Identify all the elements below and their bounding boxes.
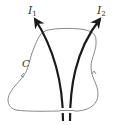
label-i1: I1 (27, 4, 37, 18)
current-wire-i2 (70, 19, 100, 121)
loop-direction-arrow-right (92, 71, 96, 74)
ampere-diagram: I1 I2 C (0, 0, 114, 125)
current-wire-i1 (35, 19, 63, 121)
label-loop-c: C (22, 58, 30, 69)
label-i2: I2 (96, 4, 106, 18)
loop-direction-arrow-left (21, 73, 24, 77)
loop-c (8, 28, 98, 111)
